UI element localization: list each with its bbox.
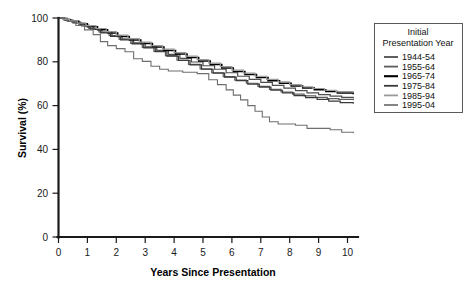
legend-label-1975-84: 1975-84: [402, 81, 435, 91]
y-tick-label: 60: [37, 100, 49, 111]
y-tick-label: 0: [42, 232, 48, 243]
x-tick-label: 8: [287, 247, 293, 258]
y-tick-label: 100: [31, 13, 48, 24]
legend-label-1955-64: 1955-64: [402, 62, 435, 72]
x-tick-label: 5: [200, 247, 206, 258]
x-tick-label: 2: [114, 247, 120, 258]
legend-label-1995-04: 1995-04: [402, 100, 435, 110]
x-tick-label: 4: [171, 247, 177, 258]
y-tick-label: 80: [37, 56, 49, 67]
x-tick-label: 6: [229, 247, 235, 258]
x-tick-label: 3: [142, 247, 148, 258]
legend-label-1944-54: 1944-54: [402, 52, 435, 62]
x-tick-label: 7: [258, 247, 264, 258]
y-tick-label: 40: [37, 144, 49, 155]
y-axis-title: Survival (%): [16, 98, 28, 158]
x-tick-label: 0: [56, 247, 62, 258]
legend-label-1985-94: 1985-94: [402, 91, 435, 101]
legend-label-1965-74: 1965-74: [402, 71, 435, 81]
legend-title-line-1: Initial: [407, 27, 428, 37]
legend: Initial Presentation Year 1944-541955-64…: [375, 24, 463, 113]
y-tick-label: 20: [37, 188, 49, 199]
legend-title-line-2: Presentation Year: [382, 38, 453, 48]
x-axis-title: Years Since Presentation: [150, 266, 275, 278]
x-tick-label: 10: [342, 247, 354, 258]
survival-chart-figure: 020406080100 012345678910 Survival (%) Y…: [0, 0, 469, 285]
x-tick-label: 9: [316, 247, 322, 258]
survival-chart-svg: 020406080100 012345678910 Survival (%) Y…: [0, 0, 469, 285]
x-tick-label: 1: [85, 247, 91, 258]
